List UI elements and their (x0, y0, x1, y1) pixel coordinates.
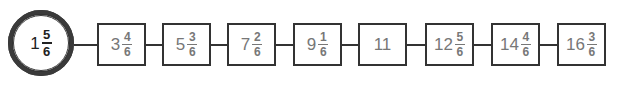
denominator: 6 (589, 45, 596, 58)
numerator: 1 (319, 31, 328, 44)
start-circle: 1 5 6 (8, 10, 74, 76)
mixed-number: 14 4 6 (500, 31, 531, 59)
denominator: 6 (457, 45, 464, 58)
connector (342, 44, 358, 46)
whole-part: 3 (111, 36, 120, 53)
connector (145, 44, 162, 46)
whole-part: 16 (566, 36, 585, 53)
whole-part: 1 (30, 35, 39, 52)
numerator: 2 (253, 31, 262, 44)
mixed-number: 5 3 6 (176, 31, 197, 59)
mixed-number: 7 2 6 (241, 31, 262, 59)
fraction: 3 6 (187, 31, 197, 59)
connector (474, 44, 491, 46)
whole-part: 12 (434, 36, 453, 53)
mixed-number: 3 4 6 (111, 31, 132, 59)
denominator: 6 (43, 44, 50, 58)
mixed-number: 9 1 6 (307, 31, 328, 59)
whole-part: 5 (176, 36, 185, 53)
fraction: 5 6 (42, 28, 52, 58)
denominator: 6 (254, 45, 261, 58)
numerator: 3 (188, 31, 197, 44)
fraction: 3 6 (587, 31, 597, 59)
whole-part: 9 (307, 36, 316, 53)
whole-number: 11 (374, 36, 392, 53)
sequence-box-3: 7 2 6 (227, 23, 276, 66)
fraction: 1 6 (318, 31, 328, 59)
fraction: 5 6 (455, 31, 465, 59)
connector (540, 44, 557, 46)
whole-part: 11 (374, 36, 392, 53)
sequence-box-1: 3 4 6 (97, 23, 146, 66)
mixed-number: 1 5 6 (30, 28, 51, 58)
numerator: 5 (42, 28, 51, 42)
connector (407, 44, 425, 46)
denominator: 6 (523, 45, 530, 58)
sequence-box-6: 12 5 6 (425, 23, 474, 66)
connector (74, 44, 97, 46)
sequence-box-8: 16 3 6 (557, 23, 606, 66)
fraction: 4 6 (521, 31, 531, 59)
denominator: 6 (189, 45, 196, 58)
fraction: 4 6 (122, 31, 132, 59)
numerator: 4 (123, 31, 132, 44)
fraction: 2 6 (252, 31, 262, 59)
mixed-number: 12 5 6 (434, 31, 465, 59)
sequence-box-4: 9 1 6 (293, 23, 342, 66)
sequence-box-5: 11 (358, 23, 407, 66)
numerator: 5 (456, 31, 465, 44)
whole-part: 7 (241, 36, 250, 53)
mixed-number: 16 3 6 (566, 31, 597, 59)
denominator: 6 (320, 45, 327, 58)
sequence-box-2: 5 3 6 (162, 23, 211, 66)
sequence-box-7: 14 4 6 (491, 23, 540, 66)
numerator: 3 (588, 31, 597, 44)
connector (276, 44, 293, 46)
numerator: 4 (522, 31, 531, 44)
denominator: 6 (124, 45, 131, 58)
connector (211, 44, 227, 46)
whole-part: 14 (500, 36, 519, 53)
